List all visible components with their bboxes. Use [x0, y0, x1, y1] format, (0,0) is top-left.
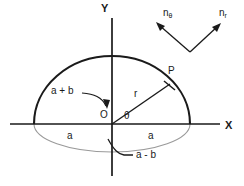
a-plus-b-leader-line: [82, 93, 106, 106]
normal-r-label: nr: [219, 8, 227, 19]
angle-theta-label: θ: [124, 111, 130, 121]
normal-theta-label: nθ: [163, 8, 172, 19]
normal-r-subscript: r: [225, 12, 227, 19]
a-plus-b-leader-arrowhead: [103, 99, 110, 109]
x-axis-label: X: [225, 120, 232, 131]
radius-line: [112, 84, 170, 124]
semi-axis-left-label: a: [67, 131, 73, 141]
semi-axis-right-label: a: [148, 131, 154, 141]
point-p-label: P: [168, 66, 175, 76]
origin-label: O: [100, 110, 108, 120]
y-axis-label: Y: [101, 3, 108, 14]
diagram-canvas: [0, 0, 244, 186]
normal-theta-vector-line: [159, 25, 190, 52]
radius-label: r: [134, 89, 137, 99]
normal-r-vector-line: [190, 26, 218, 52]
upper-semi-axis-label: a + b: [51, 86, 74, 96]
lower-semi-axis-label: a - b: [136, 150, 156, 160]
normal-theta-subscript: θ: [169, 12, 173, 19]
polar-ovoid-diagram: Y X O P r θ a a a + b a - b nθ nr: [0, 0, 244, 186]
